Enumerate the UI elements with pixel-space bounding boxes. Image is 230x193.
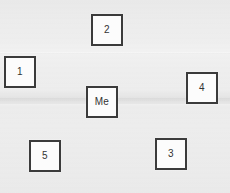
- node-label: 1: [17, 67, 23, 77]
- node-box-3[interactable]: 3: [155, 138, 187, 170]
- node-label: 2: [104, 25, 110, 35]
- node-label: 3: [168, 149, 174, 159]
- node-box-2[interactable]: 2: [91, 14, 123, 46]
- node-label: Me: [95, 97, 109, 107]
- node-box-4[interactable]: 4: [186, 72, 218, 104]
- node-box-5[interactable]: 5: [29, 140, 61, 172]
- node-box-me[interactable]: Me: [86, 86, 118, 118]
- node-label: 5: [42, 151, 48, 161]
- node-box-1[interactable]: 1: [4, 56, 36, 88]
- node-label: 4: [199, 83, 205, 93]
- scene-canvas: 2 1 4 Me 3 5: [0, 0, 230, 193]
